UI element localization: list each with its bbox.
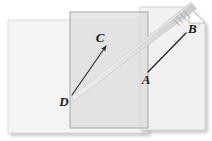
geometry-figure: A B C D [0, 0, 212, 141]
label-A: A [141, 72, 151, 87]
label-C: C [96, 30, 105, 45]
label-B: B [187, 21, 197, 36]
figure-canvas: A B C D [0, 0, 212, 141]
label-D: D [58, 94, 69, 109]
